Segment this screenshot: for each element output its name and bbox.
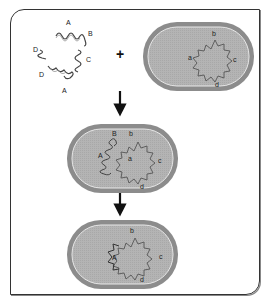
cell1-label-c: c <box>233 56 237 63</box>
cell2-label-d: d <box>140 183 144 190</box>
dna-fragment-c <box>75 50 81 72</box>
cell3-label-d: d <box>140 276 144 283</box>
fragment-label-a2: A <box>62 87 67 94</box>
fragment-label-c: C <box>86 56 91 63</box>
cell1-label-b: b <box>212 30 216 37</box>
cell1-label-a: a <box>188 54 192 61</box>
cell2-donor-label-b: B <box>112 130 117 137</box>
cell2-label-b: b <box>129 130 133 137</box>
cell2-label-a: a <box>128 155 132 162</box>
fragment-label-d2: D <box>39 71 44 78</box>
plus-icon: + <box>116 46 124 62</box>
fragment-label-b: B <box>88 30 93 37</box>
cell3-label-a: A <box>112 254 117 261</box>
dna-fragment-d-top <box>38 50 46 59</box>
cell3-label-b: b <box>130 227 134 234</box>
dna-fragment-da <box>48 66 73 79</box>
recipient-cell <box>143 22 254 91</box>
free-dna-fragments <box>38 33 86 79</box>
fragment-label-d: D <box>33 46 38 53</box>
cell3-label-c: c <box>159 253 163 260</box>
cell2-label-c: c <box>158 157 162 164</box>
fragment-label-a: A <box>66 19 71 26</box>
cell1-label-d: d <box>215 81 219 88</box>
cell2-donor-label-a: A <box>98 152 103 159</box>
transformation-diagram: A B C D D A + b a c d B A b a c d b A c … <box>0 0 267 303</box>
